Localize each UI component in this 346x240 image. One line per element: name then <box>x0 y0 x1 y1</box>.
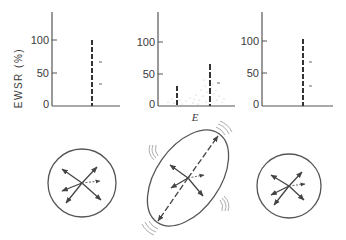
panel-right-chart: 100 50 0 <box>241 12 333 110</box>
tick-label-50: 50 <box>143 68 155 80</box>
strength-distribution-shading <box>167 79 224 104</box>
panel-left-chart: 100 50 0 <box>31 12 120 110</box>
tick-label-50: 50 <box>247 67 259 79</box>
deformed-nucleus-middle <box>131 115 245 240</box>
tick-label-100: 100 <box>241 35 259 47</box>
x-axis-label: E <box>191 111 199 123</box>
tick-label-0: 0 <box>149 98 155 110</box>
tick-label-0: 0 <box>43 98 49 110</box>
tick-label-100: 100 <box>31 34 49 46</box>
tick-label-0: 0 <box>253 98 259 110</box>
panel-middle-chart: 100 50 0 E <box>137 12 235 123</box>
y-axis-title: EWSR (%) <box>13 48 24 108</box>
tick-label-100: 100 <box>137 36 155 48</box>
spherical-nucleus-left <box>48 149 116 217</box>
tick-label-50: 50 <box>37 67 49 79</box>
spherical-nucleus-right <box>257 154 321 218</box>
